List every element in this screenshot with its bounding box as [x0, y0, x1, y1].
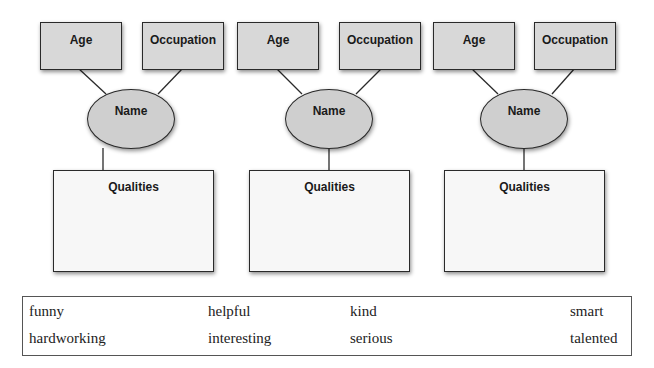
word: kind	[350, 303, 377, 320]
word-bank: funny helpful kind smart hardworking int…	[22, 296, 632, 356]
age-box-2: Age	[237, 22, 319, 70]
occupation-box-1: Occupation	[142, 22, 224, 70]
word: helpful	[208, 303, 251, 320]
age-box-3: Age	[433, 22, 515, 70]
age-label: Age	[41, 23, 121, 47]
word: interesting	[208, 330, 271, 347]
qualities-box-3: Qualities	[444, 170, 605, 272]
qualities-box-1: Qualities	[53, 170, 214, 272]
age-box-1: Age	[40, 22, 122, 70]
name-ellipse-1: Name	[87, 89, 175, 149]
age-label: Age	[434, 23, 514, 47]
name-ellipse-2: Name	[285, 89, 373, 149]
name-label: Name	[286, 90, 372, 118]
occupation-label: Occupation	[143, 23, 223, 47]
occupation-box-2: Occupation	[339, 22, 421, 70]
name-label: Name	[88, 90, 174, 118]
word: hardworking	[29, 330, 106, 347]
name-label: Name	[481, 90, 567, 118]
name-ellipse-3: Name	[480, 89, 568, 149]
occupation-label: Occupation	[535, 23, 615, 47]
qualities-label: Qualities	[54, 171, 213, 194]
word: talented	[570, 330, 617, 347]
qualities-box-2: Qualities	[249, 170, 410, 272]
word: serious	[350, 330, 393, 347]
qualities-label: Qualities	[250, 171, 409, 194]
occupation-box-3: Occupation	[534, 22, 616, 70]
word: smart	[570, 303, 603, 320]
qualities-label: Qualities	[445, 171, 604, 194]
word: funny	[29, 303, 64, 320]
age-label: Age	[238, 23, 318, 47]
occupation-label: Occupation	[340, 23, 420, 47]
